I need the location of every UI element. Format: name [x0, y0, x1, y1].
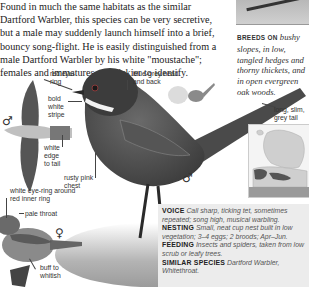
leader-pale-throat	[19, 213, 24, 214]
nesting-label: NESTING	[162, 224, 194, 231]
leader-blue-grey-head	[127, 80, 128, 90]
distribution-map	[248, 124, 309, 198]
male-symbol-icon-main: ♂	[182, 172, 193, 184]
leader-white-eye-ring	[6, 198, 7, 218]
label-blue-grey-head: blue-grey head and back	[133, 70, 183, 86]
map-land-iceland	[257, 130, 263, 135]
map-africa	[249, 187, 309, 197]
europe-map-svg	[249, 125, 309, 197]
label-bold-white-stripe: bold white stripe	[48, 95, 70, 119]
female-perch	[10, 265, 30, 287]
label-white-eye-ring: white eye-ring around red inner ring	[10, 187, 85, 203]
map-land-north	[264, 130, 305, 168]
label-white-edge-tail: white edge to tail	[44, 144, 66, 168]
label-red-eye-ring: red eye-ring	[50, 70, 80, 86]
similar-species-label: SIMILAR SPECIES	[162, 259, 225, 266]
feeding-label: FEEDING	[162, 241, 194, 248]
leader-bold-white-stripe	[68, 101, 82, 102]
label-buff-to-whitish: buff to whitish	[40, 264, 70, 280]
female-symbol-icon: ♀	[55, 227, 64, 239]
species-info-box: VOICE Call sharp, ticking tet, sometimes…	[158, 204, 309, 287]
male-symbol-icon: ♂	[2, 115, 13, 127]
female-tail	[50, 240, 82, 250]
voice-label: VOICE	[162, 207, 184, 214]
label-long-slim-tail: long, slim, grey tail	[274, 106, 309, 122]
label-pale-throat: pale throat	[25, 210, 65, 218]
